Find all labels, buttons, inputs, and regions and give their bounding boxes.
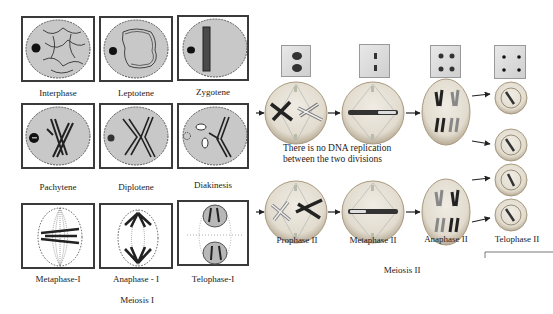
anaphase-2-label: Anaphase II — [410, 234, 482, 244]
no-dna-replication-note: There is no DNA replication between the … — [283, 143, 391, 165]
note-line-2: between the two divisions — [283, 154, 391, 165]
metaphase-2-label: Metaphase II — [335, 235, 411, 245]
prophase-2-label: Prophase II — [262, 235, 332, 245]
note-line-1: There is no DNA replication — [283, 143, 391, 154]
telophase-2-label: Telophase II — [482, 234, 552, 244]
meiosis-2-cells-diagram — [0, 0, 553, 314]
meiosis-2-title: Meiosis II — [372, 265, 432, 275]
